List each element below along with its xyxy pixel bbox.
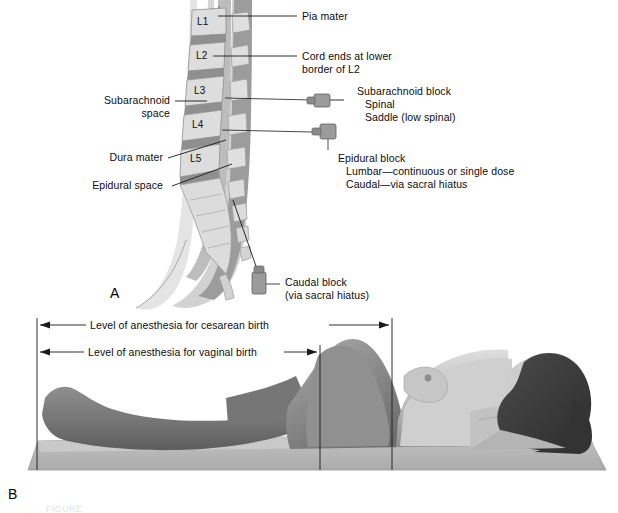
label-subarachnoid-space-line2: space bbox=[35, 107, 170, 120]
vertebra-label-l4: L4 bbox=[192, 118, 203, 131]
label-epidural-space: Epidural space bbox=[25, 179, 163, 192]
label-caudal-block-title: Caudal block bbox=[285, 276, 347, 289]
vertebra-label-l1: L1 bbox=[197, 15, 208, 28]
figure-caption-partial: FIGURE bbox=[46, 504, 82, 513]
label-pia-mater: Pia mater bbox=[302, 10, 348, 23]
vertebra-label-l2: L2 bbox=[196, 49, 207, 62]
label-epidural-block-caudal: Caudal—via sacral hiatus bbox=[346, 178, 467, 191]
panel-a-artwork bbox=[0, 0, 618, 513]
label-dura-mater: Dura mater bbox=[35, 151, 163, 164]
panel-b-letter: B bbox=[8, 486, 17, 502]
measure-label-cesarean: Level of anesthesia for cesarean birth bbox=[90, 319, 269, 332]
panel-a-letter: A bbox=[110, 285, 119, 301]
label-cord-ends-line2: border of L2 bbox=[302, 63, 360, 76]
measure-label-vaginal: Level of anesthesia for vaginal birth bbox=[88, 346, 257, 359]
label-subarachnoid-block-spinal: Spinal bbox=[365, 98, 395, 111]
vertebra-label-l3: L3 bbox=[194, 84, 205, 97]
vertebra-label-l5: L5 bbox=[190, 152, 201, 165]
figure-root: L1 L2 L3 L4 L5 Pia mater Cord ends at lo… bbox=[0, 0, 618, 513]
label-subarachnoid-block-saddle: Saddle (low spinal) bbox=[365, 111, 456, 124]
label-cord-ends-line1: Cord ends at lower bbox=[302, 50, 392, 63]
label-subarachnoid-block-title: Subarachnoid block bbox=[357, 85, 451, 98]
label-caudal-block-sub: (via sacral hiatus) bbox=[285, 289, 369, 302]
label-epidural-block-lumbar: Lumbar—continuous or single dose bbox=[346, 165, 514, 178]
label-epidural-block-title: Epidural block bbox=[338, 152, 405, 165]
label-subarachnoid-space-line1: Subarachnoid bbox=[35, 94, 170, 107]
